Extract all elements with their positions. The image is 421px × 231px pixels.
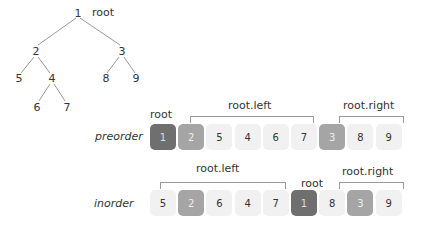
inorder-cell: 2 [178, 190, 204, 216]
inorder-cell: 8 [319, 190, 345, 216]
preorder-cell: 3 [319, 124, 345, 150]
preorder-cell: 4 [235, 124, 261, 150]
tree-node: 9 [133, 72, 140, 85]
tree-node: 6 [34, 101, 41, 114]
tree-node: 1 [75, 7, 82, 20]
preorder-cell: 6 [263, 124, 289, 150]
preorder-left-bracket [190, 116, 314, 123]
inorder-left-bracket [160, 182, 286, 189]
tree-node: 3 [119, 45, 126, 58]
preorder-cell: 8 [347, 124, 373, 150]
preorder-label: preorder [95, 130, 143, 143]
preorder-left-label: root.left [228, 99, 271, 112]
preorder-cell: 5 [206, 124, 232, 150]
tree-node: 8 [103, 72, 110, 85]
preorder-right-label: root.right [343, 99, 394, 112]
preorder-cell: 9 [376, 124, 402, 150]
inorder-label: inorder [94, 197, 134, 210]
inorder-cell: 7 [263, 190, 289, 216]
preorder-cell: 7 [291, 124, 317, 150]
inorder-left-label: root.left [196, 162, 239, 175]
tree-node: 2 [33, 45, 40, 58]
tree-node: 4 [49, 72, 56, 85]
inorder-cell: 4 [235, 190, 261, 216]
preorder-root-label: root [150, 108, 172, 121]
preorder-cell: 1 [150, 124, 176, 150]
inorder-right-label: root.right [342, 165, 393, 178]
tree-root-label: root [92, 6, 114, 19]
inorder-cell: 3 [347, 190, 373, 216]
inorder-right-bracket [339, 182, 404, 189]
inorder-cell: 1 [291, 190, 317, 216]
inorder-cell: 5 [150, 190, 176, 216]
tree-node: 5 [16, 72, 23, 85]
inorder-cell: 6 [206, 190, 232, 216]
tree-node: 7 [64, 101, 71, 114]
preorder-cell: 2 [178, 124, 204, 150]
inorder-root-label: root [301, 177, 323, 190]
preorder-right-bracket [339, 116, 404, 123]
inorder-cell: 9 [376, 190, 402, 216]
